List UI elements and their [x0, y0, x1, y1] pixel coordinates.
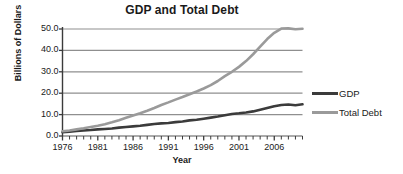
series-line-gdp [63, 104, 303, 132]
legend-swatch-icon [312, 111, 338, 114]
x-tick-label-2006: 2006 [254, 142, 294, 152]
legend-item-total-debt[interactable]: Total Debt [312, 103, 382, 122]
x-tick-label-1981: 1981 [78, 142, 118, 152]
legend-swatch-icon [312, 92, 338, 95]
legend-label: GDP [339, 88, 360, 99]
chart-container: GDP and Total Debt Billions of Dollars 0… [0, 0, 403, 174]
x-tick-label-1996: 1996 [184, 142, 224, 152]
legend-label: Total Debt [339, 107, 382, 118]
y-tick-label-50: 50.0 [25, 23, 59, 33]
y-tick-label-10: 10.0 [25, 109, 59, 119]
x-tick-label-1976: 1976 [43, 142, 83, 152]
y-tick-label-0: 0.0 [25, 130, 59, 140]
series-line-total-debt [63, 28, 303, 131]
y-tick-label-20: 20.0 [25, 87, 59, 97]
x-tick-label-2001: 2001 [219, 142, 259, 152]
legend-item-gdp[interactable]: GDP [312, 84, 382, 103]
x-axis-title: Year [62, 155, 302, 165]
x-tick-label-1991: 1991 [148, 142, 188, 152]
y-tick-label-40: 40.0 [25, 44, 59, 54]
x-tick-label-1986: 1986 [113, 142, 153, 152]
y-tick-label-30: 30.0 [25, 66, 59, 76]
chart-legend: GDPTotal Debt [312, 84, 382, 122]
